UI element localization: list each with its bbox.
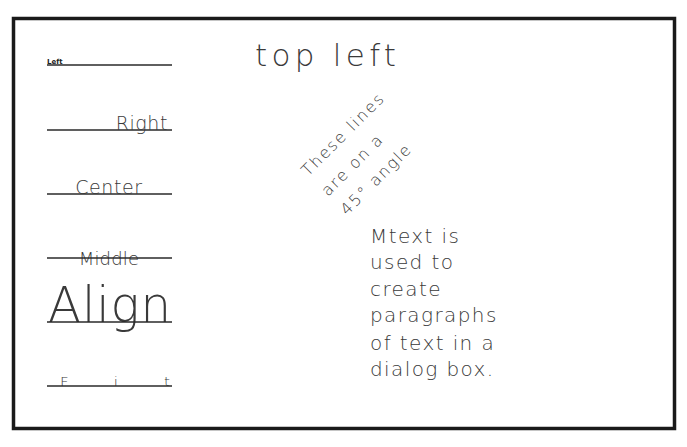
angled-text-block[interactable]: These lines are on a 45° angle [297, 89, 416, 219]
mtext-line-6: dialog box. [370, 357, 495, 381]
text-center: Center [75, 176, 143, 198]
mtext-line-5: of text in a [370, 331, 495, 355]
text-left: Left [47, 58, 63, 66]
text-right: Right [116, 112, 168, 134]
drawing-border [14, 19, 675, 429]
mtext-line-4: paragraphs [370, 303, 498, 327]
mtext-paragraph[interactable]: Mtext is used to create paragraphs of te… [370, 224, 498, 381]
mtext-line-3: create [370, 277, 442, 301]
sample-align[interactable]: Align [47, 276, 172, 334]
sample-center[interactable]: Center [47, 176, 172, 198]
mtext-line-2: used to [370, 250, 454, 274]
sample-right[interactable]: Right [47, 112, 172, 134]
cad-drawing: Left Right Center Middle Align Fit top l… [0, 0, 687, 447]
sample-left[interactable]: Left [47, 58, 172, 66]
text-top-left[interactable]: top left [255, 37, 399, 73]
text-align: Align [48, 276, 172, 334]
sample-fit[interactable]: Fit [47, 375, 172, 389]
mtext-line-1: Mtext is [370, 224, 460, 248]
sample-middle[interactable]: Middle [47, 248, 172, 269]
